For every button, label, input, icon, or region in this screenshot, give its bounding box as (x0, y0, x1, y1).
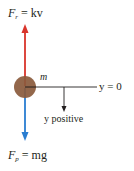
mass-label: m (40, 72, 47, 82)
gravity-force-label: Fp = mg (8, 149, 47, 163)
free-body-diagram: Fr = kv m y = 0 y positive Fp = mg (0, 0, 134, 171)
force-expression: = mg (22, 148, 47, 162)
force-subscript: p (15, 155, 19, 163)
origin-label: y = 0 (99, 81, 122, 92)
force-expression: = kv (21, 6, 43, 20)
positive-direction-arrow (62, 87, 67, 112)
resistance-force-label: Fr = kv (8, 7, 43, 21)
direction-label: y positive (44, 114, 83, 124)
force-subscript: r (15, 13, 18, 21)
